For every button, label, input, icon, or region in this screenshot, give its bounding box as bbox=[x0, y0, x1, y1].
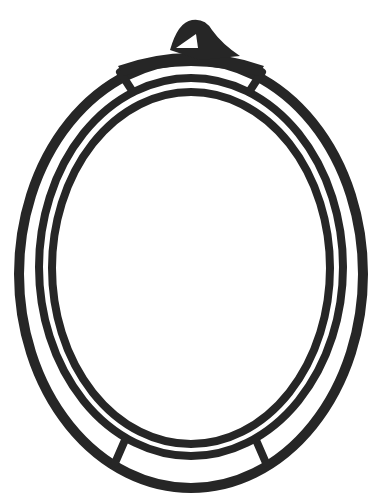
bottom-right-strut bbox=[256, 440, 266, 463]
oval-frame-drawing bbox=[0, 0, 385, 502]
outer-ring bbox=[19, 60, 363, 488]
inner-ring bbox=[52, 92, 330, 444]
bottom-left-strut bbox=[115, 440, 125, 463]
middle-ring bbox=[39, 78, 343, 456]
